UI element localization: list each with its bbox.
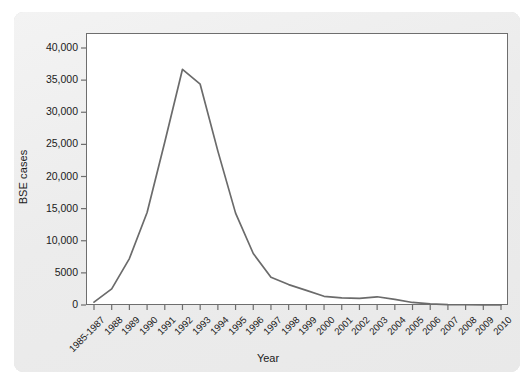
y-axis-title: BSE cases (17, 132, 29, 222)
y-tick-label: 40,000 (20, 41, 78, 53)
x-axis-ticks (94, 305, 501, 310)
y-tick-label: 10,000 (20, 234, 78, 246)
bse-cases-line (94, 69, 501, 305)
y-tick-label: 30,000 (20, 105, 78, 117)
y-tick-label: 35,000 (20, 73, 78, 85)
y-tick-label: 5000 (20, 266, 78, 278)
y-axis-ticks (81, 48, 86, 305)
y-tick-label: 0 (20, 298, 78, 310)
bse-cases-figure: 0500010,00015,00020,00025,00030,00035,00… (0, 0, 532, 384)
x-axis-title: Year (208, 352, 328, 364)
